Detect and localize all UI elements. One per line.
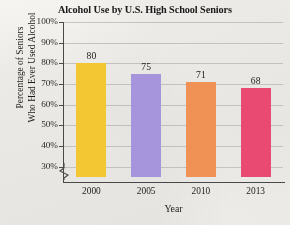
bar-value-label: 68 <box>236 75 276 86</box>
x-axis-tick-label: 2005 <box>124 186 168 196</box>
bar[interactable] <box>186 82 216 177</box>
x-axis-line <box>63 182 285 183</box>
bar[interactable] <box>131 74 161 177</box>
y-axis-tick-mark <box>59 43 64 44</box>
y-axis-line <box>63 22 64 183</box>
y-axis-tick-mark <box>59 125 64 126</box>
y-axis-tick-mark <box>59 84 64 85</box>
bar[interactable] <box>241 88 271 177</box>
bar-value-label: 80 <box>71 50 111 61</box>
x-axis-title: Year <box>64 203 283 214</box>
y-axis-tick-label: 30% <box>24 162 58 171</box>
x-axis-tick-label: 2013 <box>234 186 278 196</box>
bar-value-label: 75 <box>126 61 166 72</box>
y-axis-tick-mark <box>59 63 64 64</box>
gridline <box>64 43 283 44</box>
y-axis-tick-mark <box>59 105 64 106</box>
chart-figure: Alcohol Use by U.S. High School Seniors … <box>0 0 290 225</box>
y-axis-title-line2: Who Had Ever Used Alcohol <box>26 0 38 142</box>
x-axis-tick-label: 2000 <box>69 186 113 196</box>
y-axis-tick-mark <box>59 146 64 147</box>
bar[interactable] <box>76 63 106 177</box>
bar-value-label: 71 <box>181 69 221 80</box>
gridline <box>64 22 283 23</box>
y-axis-tick-mark <box>59 22 64 23</box>
x-axis-tick-label: 2010 <box>179 186 223 196</box>
y-axis-tick-mark <box>59 167 64 168</box>
y-axis-title-line1: Percentage of Seniors <box>15 0 27 142</box>
y-axis-tick-label: 40% <box>24 141 58 150</box>
axis-break-icon <box>58 163 70 180</box>
y-axis-title: Percentage of Seniors Who Had Ever Used … <box>15 0 38 142</box>
